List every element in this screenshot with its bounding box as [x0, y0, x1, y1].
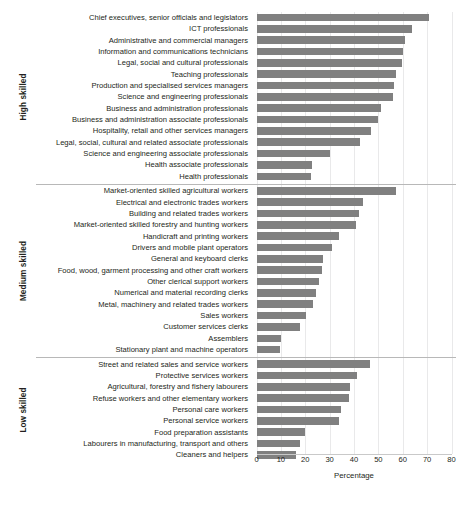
- bar: [257, 173, 311, 181]
- bar-row: [257, 287, 452, 298]
- bar-row: [257, 276, 452, 287]
- bar-row: [257, 197, 452, 208]
- category-label: Health associate professionals: [36, 159, 252, 170]
- category-label: Chief executives, senior officials and l…: [36, 12, 252, 23]
- bar: [257, 312, 307, 320]
- category-label: Refuse workers and other elementary work…: [36, 393, 252, 404]
- bar-row: [257, 103, 452, 114]
- bar-row: [257, 427, 452, 438]
- category-label: Street and related sales and service wor…: [36, 359, 252, 370]
- category-label: Labourers in manufacturing, transport an…: [36, 438, 252, 449]
- bar: [257, 70, 396, 78]
- bar: [257, 93, 393, 101]
- category-label: Food, wood, garment processing and other…: [36, 265, 252, 276]
- bar-row: [257, 231, 452, 242]
- bar: [257, 161, 312, 169]
- category-label: Health professionals: [36, 171, 252, 182]
- bar: [257, 394, 349, 402]
- category-label: Handicraft and printing workers: [36, 231, 252, 242]
- category-label: Personal service workers: [36, 415, 252, 426]
- category-label: Numerical and material recording clerks: [36, 287, 252, 298]
- bar: [257, 127, 371, 135]
- bar: [257, 417, 340, 425]
- bar-row: [257, 35, 452, 46]
- x-tick-label: 50: [374, 455, 382, 464]
- x-tick-label: 30: [325, 455, 333, 464]
- category-label: Other clerical support workers: [36, 276, 252, 287]
- bar-row: [257, 69, 452, 80]
- bar: [257, 300, 314, 308]
- category-label: Production and specialised services mana…: [36, 80, 252, 91]
- bar: [257, 406, 342, 414]
- bar-row: [257, 265, 452, 276]
- x-axis: Percentage 01020304050607080: [257, 455, 452, 485]
- bar: [257, 104, 381, 112]
- x-tick-label: 70: [423, 455, 431, 464]
- bar-row: [257, 438, 452, 449]
- bar: [257, 335, 281, 343]
- bar: [257, 428, 306, 436]
- bar: [257, 187, 396, 195]
- bar: [257, 346, 280, 354]
- category-label: Customer services clerks: [36, 321, 252, 332]
- group-axis-label: Medium skilled: [19, 241, 28, 301]
- category-label: Stationary plant and machine operators: [36, 344, 252, 355]
- bar-row: [257, 171, 452, 182]
- category-label: Assemblers: [36, 333, 252, 344]
- bar-row: [257, 125, 452, 136]
- bar: [257, 266, 322, 274]
- bar-row: [257, 310, 452, 321]
- category-label: Metal, machinery and related trades work…: [36, 299, 252, 310]
- bar-row: [257, 57, 452, 68]
- bar: [257, 210, 359, 218]
- category-label: Business and administration professional…: [36, 103, 252, 114]
- x-axis-title: Percentage: [257, 471, 452, 480]
- category-label: Hospitality, retail and other services m…: [36, 125, 252, 136]
- bar-row: [257, 12, 452, 23]
- category-label: Building and related trades workers: [36, 208, 252, 219]
- bar-series: [257, 12, 452, 454]
- bar-row: [257, 404, 452, 415]
- bar: [257, 150, 331, 158]
- x-tick-label: 60: [399, 455, 407, 464]
- bar: [257, 221, 357, 229]
- category-label: Drivers and mobile plant operators: [36, 242, 252, 253]
- bar: [257, 14, 430, 22]
- bar-row: [257, 381, 452, 392]
- x-tick-label: 80: [447, 455, 455, 464]
- bar: [257, 383, 351, 391]
- bar: [257, 116, 379, 124]
- bar: [257, 48, 403, 56]
- bar-row: [257, 185, 452, 196]
- category-label: Business and administration associate pr…: [36, 114, 252, 125]
- category-label: ICT professionals: [36, 23, 252, 34]
- bar-row: [257, 344, 452, 355]
- horizontal-bar-chart: High skilledMedium skilledLow skilled Ch…: [0, 0, 476, 514]
- category-label: Personal care workers: [36, 404, 252, 415]
- bar-row: [257, 114, 452, 125]
- x-tick-label: 40: [350, 455, 358, 464]
- group-separator: [36, 184, 456, 185]
- group-axis-label: Low skilled: [19, 387, 28, 432]
- group-axis-label: High skilled: [19, 74, 28, 121]
- bar-row: [257, 148, 452, 159]
- bar-row: [257, 46, 452, 57]
- bar: [257, 198, 363, 206]
- bar: [257, 323, 300, 331]
- x-tick-label: 20: [301, 455, 309, 464]
- bar-row: [257, 253, 452, 264]
- bar-row: [257, 23, 452, 34]
- category-label: Food preparation assistants: [36, 427, 252, 438]
- category-label: Market-oriented skilled forestry and hun…: [36, 219, 252, 230]
- x-tick-label: 10: [277, 455, 285, 464]
- category-label: Legal, social and cultural professionals: [36, 57, 252, 68]
- bar: [257, 255, 323, 263]
- category-label: Sales workers: [36, 310, 252, 321]
- bar: [257, 59, 403, 67]
- bar: [257, 138, 360, 146]
- category-label: Cleaners and helpers: [36, 449, 252, 460]
- category-label: Legal, social, cultural and related asso…: [36, 137, 252, 148]
- bar: [257, 289, 316, 297]
- category-label: General and keyboard clerks: [36, 253, 252, 264]
- category-label-column: Chief executives, senior officials and l…: [36, 12, 252, 461]
